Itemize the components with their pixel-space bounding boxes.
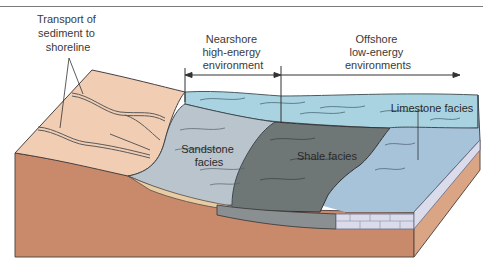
nearshore-arrow [185, 73, 281, 78]
block-diagram: Transport of sediment to shoreline Nears… [0, 0, 493, 275]
offshore-arrow [281, 73, 460, 78]
nearshore-label: Nearshore high-energy environment [202, 33, 263, 71]
sedimentary-facies-diagram: Transport of sediment to shoreline Nears… [0, 0, 493, 275]
shale-label: Shale facies [297, 150, 357, 162]
offshore-label: Offshore low-energy environments [345, 33, 412, 71]
limestone-label: Limestone facies [391, 102, 474, 114]
transport-label: Transport of sediment to shoreline [37, 13, 99, 53]
